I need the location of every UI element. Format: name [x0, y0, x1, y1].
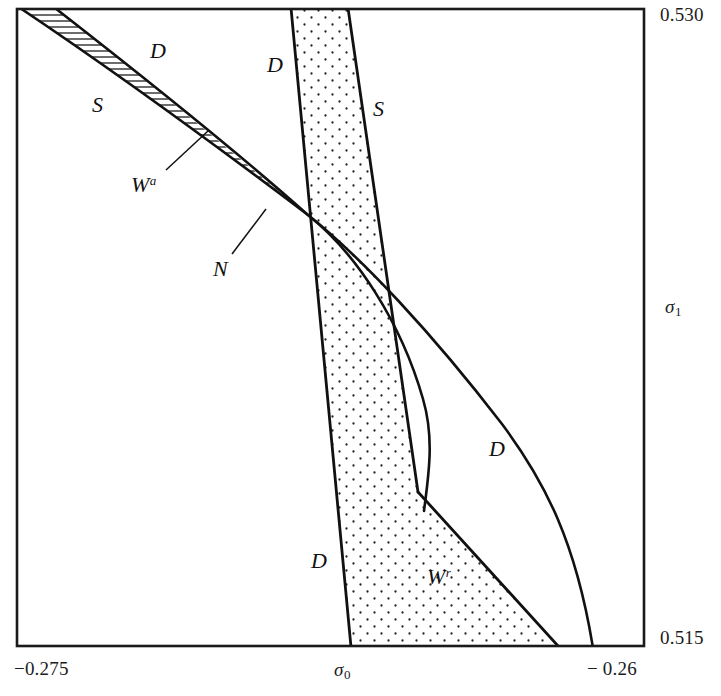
label-d-top-left: D — [150, 38, 166, 64]
label-d-right: D — [489, 436, 505, 462]
x-axis-min-tick: −0.275 — [14, 658, 69, 680]
bifurcation-plot — [0, 0, 721, 696]
label-s-right: S — [373, 96, 384, 122]
leader-line-wa — [166, 131, 208, 170]
x-axis-label-subscript: 0 — [344, 667, 351, 682]
y-axis-label-subscript: 1 — [675, 304, 682, 319]
label-d-upper-mid: D — [267, 52, 283, 78]
y-axis-min-tick: 0.515 — [660, 627, 704, 649]
label-wa-superscript: a — [149, 173, 156, 188]
leader-lines — [166, 131, 266, 254]
stippled-region-wr — [291, 8, 558, 646]
x-axis-max-tick: − 0.26 — [587, 658, 637, 680]
y-axis-max-tick: 0.530 — [660, 4, 704, 26]
leader-line-n — [232, 209, 266, 254]
label-wr-superscript: r — [445, 565, 451, 580]
label-wr: Wr — [427, 564, 451, 590]
label-s-left: S — [92, 92, 103, 118]
label-n: N — [213, 256, 228, 282]
x-axis-label: σ0 — [334, 659, 351, 683]
label-wa: Wa — [131, 172, 156, 198]
label-d-bottom-left: D — [311, 548, 327, 574]
y-axis-label: σ1 — [665, 296, 682, 320]
figure-root: D S D S Wa N D D Wr 0.530 0.515 σ1 −0.27… — [0, 0, 721, 696]
